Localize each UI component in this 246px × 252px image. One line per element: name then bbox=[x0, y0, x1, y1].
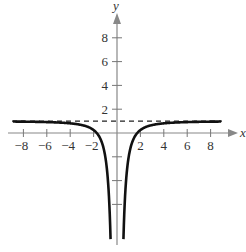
x-tick-label: −8 bbox=[14, 138, 28, 153]
y-tick-label: 2 bbox=[102, 102, 109, 117]
x-tick-label: 2 bbox=[137, 138, 144, 153]
x-tick-label: 4 bbox=[161, 138, 168, 153]
x-tick-label: 8 bbox=[207, 138, 214, 153]
y-tick-label: 8 bbox=[102, 30, 109, 45]
y-tick-label: 4 bbox=[102, 78, 109, 93]
y-axis-label: y bbox=[111, 0, 119, 13]
tick-labels: −8−6−4−224682468 bbox=[14, 30, 213, 153]
x-tick-label: 6 bbox=[184, 138, 191, 153]
x-tick-label: −6 bbox=[38, 138, 52, 153]
function-graph: −8−6−4−224682468 x y bbox=[0, 0, 246, 252]
x-axis-arrow-icon bbox=[228, 129, 238, 137]
y-axis-arrow-icon bbox=[113, 13, 121, 24]
y-tick-label: 6 bbox=[102, 54, 109, 69]
x-axis-label: x bbox=[239, 125, 246, 140]
axes bbox=[8, 13, 238, 245]
x-tick-label: −4 bbox=[61, 138, 75, 153]
x-tick-label: −2 bbox=[85, 138, 99, 153]
